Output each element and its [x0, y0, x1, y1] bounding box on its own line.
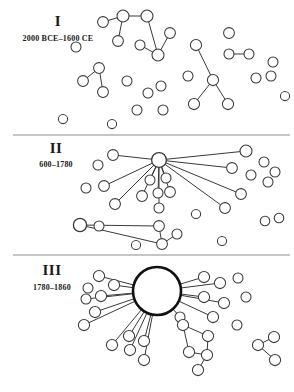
network-node	[227, 163, 238, 174]
network-node	[58, 114, 67, 123]
network-node	[268, 331, 279, 342]
network-node	[108, 279, 119, 290]
network-node	[131, 240, 140, 249]
network-node	[98, 87, 109, 98]
network-node	[218, 297, 229, 308]
network-node	[89, 306, 100, 317]
network-node	[98, 17, 109, 28]
network-node	[71, 42, 81, 52]
network-node	[117, 10, 129, 22]
network-node	[141, 10, 153, 22]
network-node	[99, 181, 110, 192]
network-node	[217, 236, 226, 245]
network-node	[152, 49, 164, 61]
network-node	[154, 221, 165, 232]
network-node	[268, 57, 278, 67]
network-node	[274, 213, 284, 223]
network-node	[220, 203, 231, 214]
network-node	[110, 199, 121, 210]
network-node	[81, 294, 91, 304]
network-node	[207, 74, 218, 85]
network-node	[153, 188, 163, 198]
hub-spoke-edge	[80, 225, 162, 244]
network-node	[236, 189, 247, 200]
diagram-render-root: I2000 BCE–1600 CEII600–1780III1780–1860	[13, 10, 290, 376]
network-node	[270, 167, 280, 177]
panel-period-label: 2000 BCE–1600 CE	[23, 34, 94, 43]
network-node	[198, 291, 209, 302]
network-node	[233, 273, 243, 283]
hub-spoke-edge	[159, 151, 246, 160]
network-node	[224, 49, 234, 59]
network-node	[198, 271, 209, 282]
network-node	[207, 311, 218, 322]
node-layer	[58, 10, 289, 129]
network-node	[214, 277, 225, 288]
network-node	[232, 320, 242, 330]
network-node	[224, 28, 235, 39]
network-node	[78, 319, 89, 330]
network-node	[259, 157, 269, 167]
network-node	[94, 63, 105, 74]
network-node	[241, 292, 251, 302]
network-node	[138, 335, 149, 346]
network-node	[135, 40, 145, 50]
network-node	[158, 105, 168, 115]
node-layer	[78, 267, 280, 376]
hub-node	[73, 218, 86, 231]
network-node	[246, 170, 256, 180]
network-node	[132, 105, 142, 115]
network-node	[122, 76, 132, 86]
network-node	[124, 344, 135, 355]
network-node	[190, 39, 201, 50]
network-node	[107, 119, 116, 128]
network-node	[192, 364, 203, 375]
network-node	[172, 229, 182, 239]
hub-spoke-edge	[159, 160, 225, 208]
network-node	[177, 319, 188, 330]
network-node	[106, 339, 117, 350]
network-node	[202, 330, 213, 341]
node-layer	[73, 145, 283, 250]
network-node	[244, 49, 254, 59]
network-node	[95, 290, 106, 301]
panel-period-label: 1780–1860	[33, 283, 71, 292]
network-diagram-canvas: I2000 BCE–1600 CEII600–1780III1780–1860	[0, 0, 294, 392]
network-node	[143, 88, 153, 98]
network-node	[93, 160, 103, 170]
network-node	[78, 76, 89, 87]
panel-roman-numeral: I	[55, 13, 61, 29]
panel-group-1: I2000 BCE–1600 CE	[13, 10, 290, 135]
hub-node	[152, 153, 167, 168]
network-node	[154, 203, 164, 213]
network-node	[183, 346, 194, 357]
network-node	[266, 71, 276, 81]
network-node	[157, 239, 168, 250]
network-node	[263, 177, 273, 187]
network-node	[138, 354, 149, 365]
panel-roman-numeral: II	[50, 140, 63, 156]
network-node	[161, 173, 171, 183]
network-node	[165, 187, 176, 198]
network-node	[108, 150, 119, 161]
network-node	[156, 81, 166, 91]
panel-group-3: III1780–1860	[33, 262, 281, 376]
network-node	[137, 191, 148, 202]
network-node	[113, 36, 124, 47]
network-node	[260, 216, 270, 226]
network-node	[123, 330, 134, 341]
panel-period-label: 600–1780	[39, 160, 73, 169]
panel-roman-numeral: III	[42, 262, 61, 278]
network-evolution-figure: I2000 BCE–1600 CEII600–1780III1780–1860	[0, 0, 294, 392]
network-node	[145, 175, 155, 185]
network-node	[222, 98, 233, 109]
network-node	[93, 270, 104, 281]
network-node	[165, 28, 176, 39]
network-node	[81, 183, 91, 193]
network-node	[94, 221, 104, 231]
network-node	[183, 71, 193, 81]
network-node	[251, 73, 261, 83]
hub-spoke-edge	[80, 225, 159, 226]
network-node	[269, 354, 280, 365]
panel-group-2: II600–1780	[13, 140, 290, 255]
